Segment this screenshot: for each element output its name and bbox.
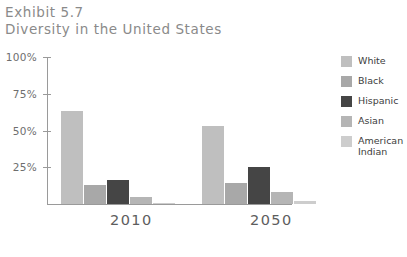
- x-axis-label: 2050: [250, 212, 293, 228]
- legend-item[interactable]: Black: [341, 75, 407, 88]
- chart-title-block: Exhibit 5.7 Diversity in the United Stat…: [5, 4, 305, 38]
- legend-swatch-icon: [341, 76, 352, 87]
- bar: [294, 201, 316, 204]
- y-axis-tick: 75%: [43, 94, 51, 95]
- y-axis-tick: 50%: [43, 131, 51, 132]
- x-axis-line: [47, 204, 292, 205]
- y-axis-tick-label: 100%: [6, 51, 37, 63]
- legend-swatch-icon: [341, 96, 352, 107]
- bar: [202, 126, 224, 204]
- bar: [84, 185, 106, 204]
- bar: [61, 111, 83, 204]
- bar: [130, 197, 152, 204]
- legend-item-label: Hispanic: [358, 95, 398, 106]
- exhibit-number: Exhibit 5.7: [5, 4, 305, 21]
- y-axis-tick-label: 75%: [13, 88, 37, 100]
- legend-item-label: American Indian: [358, 135, 403, 157]
- bar: [153, 203, 175, 204]
- legend-item-label: Black: [358, 75, 384, 86]
- bar-group: [61, 57, 176, 204]
- bar: [225, 183, 247, 204]
- y-axis-tick-label: 50%: [13, 125, 37, 137]
- legend-swatch-icon: [341, 116, 352, 127]
- legend-item-label: Asian: [358, 115, 384, 126]
- legend-item[interactable]: American Indian: [341, 135, 407, 157]
- legend-item[interactable]: White: [341, 55, 407, 68]
- chart-figure: Exhibit 5.7 Diversity in the United Stat…: [0, 0, 407, 257]
- legend-swatch-icon: [341, 136, 352, 147]
- legend-item[interactable]: Asian: [341, 115, 407, 128]
- legend-swatch-icon: [341, 56, 352, 67]
- bar: [248, 167, 270, 204]
- bar-group: [202, 57, 317, 204]
- y-axis-tick-label: 25%: [13, 161, 37, 173]
- plot-area: 100%75%50%25%: [47, 57, 287, 205]
- bar: [271, 192, 293, 204]
- legend-item[interactable]: Hispanic: [341, 95, 407, 108]
- y-axis-tick: 100%: [43, 57, 51, 58]
- y-axis-tick: 25%: [43, 167, 51, 168]
- bar: [107, 180, 129, 204]
- legend-item-label: White: [358, 55, 386, 66]
- x-axis-label: 2010: [110, 212, 153, 228]
- chart-legend: WhiteBlackHispanicAsianAmerican Indian: [341, 55, 407, 164]
- chart-title: Diversity in the United States: [5, 21, 305, 38]
